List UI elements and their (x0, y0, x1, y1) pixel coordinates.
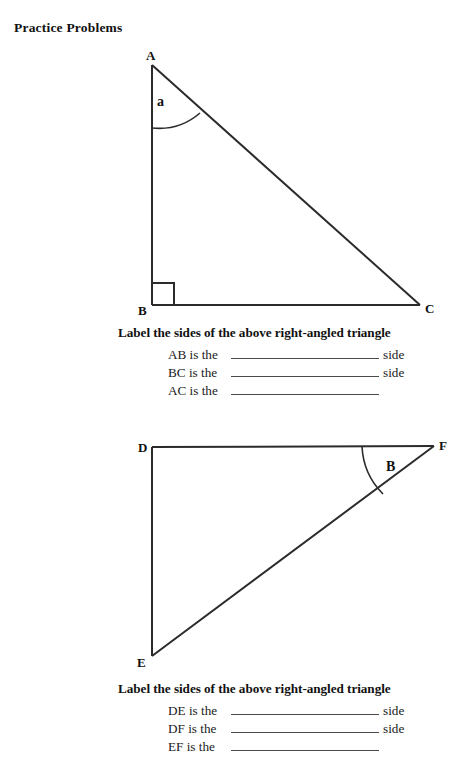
answer-blank-bc[interactable] (231, 363, 379, 377)
answer-row-ab-tail: side (383, 347, 404, 363)
answer-blank-ef[interactable] (231, 737, 379, 751)
segment-DF (152, 446, 434, 447)
vertex-label-F: F (439, 438, 447, 453)
answer-row-ef-lead: EF is the (168, 739, 231, 755)
page-title: Practice Problems (14, 20, 122, 36)
answer-row-ac-lead: AC is the (168, 383, 231, 399)
prompt-label-sides-1: Label the sides of the above right-angle… (118, 325, 391, 341)
answer-row-df-tail: side (383, 721, 404, 737)
answer-row-de-lead: DE is the (168, 703, 231, 719)
answer-blank-df[interactable] (231, 719, 379, 733)
answer-row-ac: AC is the (168, 381, 383, 399)
answer-row-ef: EF is the (168, 737, 383, 755)
answer-row-bc-tail: side (383, 365, 404, 381)
figure-triangle-abc: a A B C (138, 48, 434, 318)
answer-blank-de[interactable] (231, 701, 379, 715)
vertex-label-D: D (138, 440, 147, 455)
worksheet-page: Practice Problems a A B C B D E (0, 0, 471, 774)
answer-row-df-lead: DF is the (168, 721, 231, 737)
angle-arc-A (152, 113, 200, 128)
answer-row-bc-lead: BC is the (168, 365, 231, 381)
answer-row-de-tail: side (383, 703, 404, 719)
angle-label-B: B (386, 459, 395, 474)
answer-row-df: DF is the side (168, 719, 404, 737)
angle-label-a: a (157, 94, 164, 109)
vertex-label-B: B (138, 303, 147, 318)
answer-row-de: DE is the side (168, 701, 404, 719)
segment-AC (152, 65, 420, 305)
answer-blank-ac[interactable] (231, 381, 379, 395)
vertex-label-E: E (137, 655, 146, 670)
answer-blank-ab[interactable] (231, 345, 379, 359)
prompt-label-sides-2: Label the sides of the above right-angle… (118, 681, 391, 697)
angle-arc-F (362, 446, 383, 494)
answer-row-bc: BC is the side (168, 363, 404, 381)
answer-row-ab-lead: AB is the (168, 347, 231, 363)
answer-row-ab: AB is the side (168, 345, 404, 363)
right-angle-marker-B (152, 283, 174, 305)
segment-EF (152, 446, 434, 656)
figure-triangle-def: B D E F (137, 438, 447, 670)
vertex-label-A: A (146, 48, 156, 63)
vertex-label-C: C (425, 301, 434, 316)
